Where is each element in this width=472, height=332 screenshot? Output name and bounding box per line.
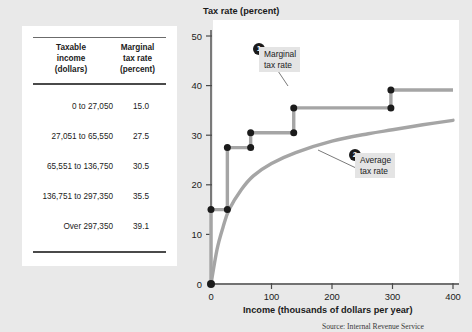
- callout-1-line2: tax rate: [264, 60, 296, 71]
- step-breakpoint-dot: [247, 129, 254, 136]
- x-tick-label: 100: [264, 291, 280, 302]
- source-note: Source: Internal Revenue Service: [322, 322, 424, 331]
- chart-axes: [206, 30, 459, 289]
- callout-average-tax-rate: Average tax rate: [355, 153, 395, 178]
- series-average-tax-rate: [211, 120, 453, 284]
- step-breakpoint-dot: [290, 104, 297, 111]
- y-tick-label: 50: [192, 31, 202, 42]
- step-breakpoint-dot: [387, 87, 394, 94]
- y-tick-label: 40: [192, 80, 202, 91]
- y-tick-label: 10: [192, 229, 202, 240]
- step-breakpoint-dot: [387, 104, 394, 111]
- y-tick-label: 30: [192, 130, 202, 141]
- y-tick-label: 0: [197, 279, 202, 290]
- series-marginal-tax-rate: [211, 90, 453, 284]
- origin-dot: [207, 280, 215, 288]
- chart-series: [207, 87, 453, 288]
- chart-svg: 010203040500100200300400: [0, 0, 472, 332]
- callout-2-line1: Average: [360, 155, 391, 166]
- step-breakpoint-dot: [224, 206, 231, 213]
- figure-root: Taxable income (dollars) Marginal tax ra…: [0, 0, 472, 332]
- y-tick-label: 20: [192, 179, 202, 190]
- x-tick-label: 300: [385, 291, 401, 302]
- x-tick-label: 400: [445, 291, 461, 302]
- callout-2-line2: tax rate: [360, 166, 391, 177]
- callout-1-line1: Marginal: [264, 49, 296, 60]
- step-breakpoint-dot: [247, 144, 254, 151]
- x-tick-label: 0: [208, 291, 213, 302]
- chart-tick-labels: 010203040500100200300400: [192, 31, 461, 302]
- step-breakpoint-dot: [290, 129, 297, 136]
- step-breakpoint-dot: [208, 206, 215, 213]
- callout-leader-lines: [276, 68, 356, 168]
- step-breakpoint-dot: [224, 144, 231, 151]
- x-tick-label: 200: [324, 291, 340, 302]
- callout-marginal-tax-rate: Marginal tax rate: [259, 47, 300, 72]
